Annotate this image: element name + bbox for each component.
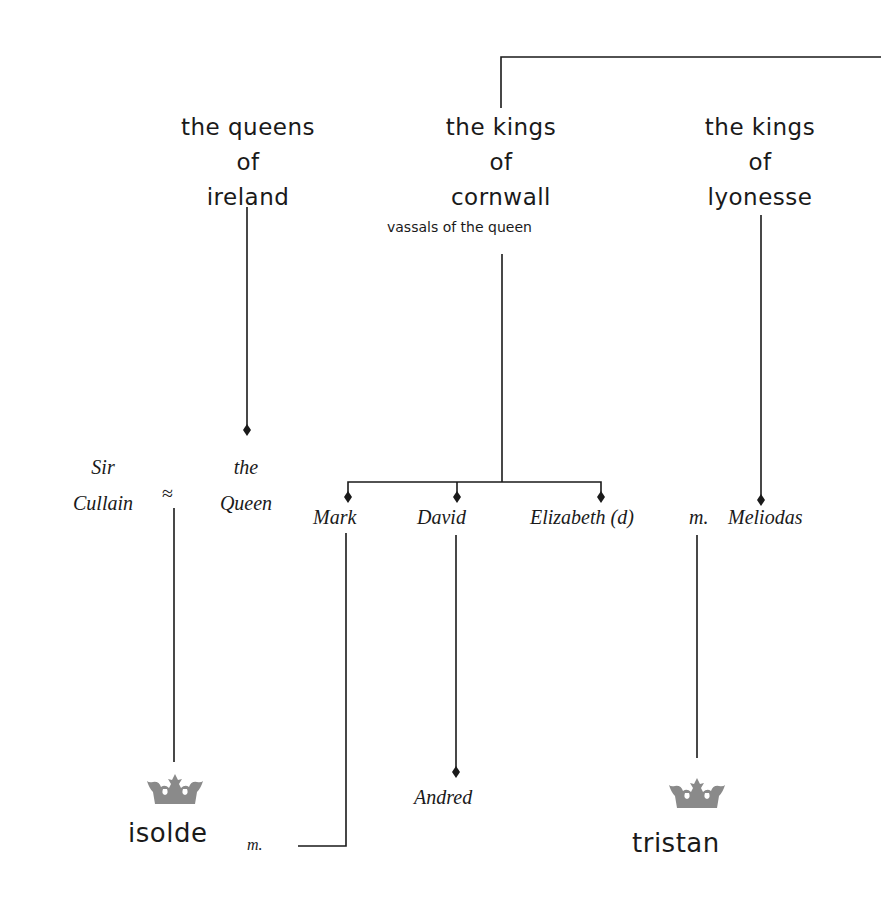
person-mark: Mark — [313, 506, 356, 529]
relation-cullain-queen: ≈ — [162, 482, 173, 505]
house-line: of — [130, 145, 366, 180]
diamond-marker — [757, 494, 765, 506]
diamond-marker — [452, 766, 460, 778]
house-line: of — [642, 145, 878, 180]
diamond-marker — [453, 491, 461, 503]
mark-isolde-marriage-line — [298, 533, 346, 846]
crown-icon — [141, 772, 209, 812]
house-ireland: the queens of ireland — [130, 110, 366, 215]
diamond-marker — [243, 424, 251, 436]
person-andred: Andred — [414, 786, 472, 809]
person-line: Sir — [72, 449, 134, 485]
person-tristan: tristan — [632, 828, 720, 858]
house-line: the kings — [642, 110, 878, 145]
person-elizabeth: Elizabeth (d) — [530, 506, 634, 529]
person-meliodas: Meliodas — [728, 506, 802, 529]
relation-elizabeth-meliodas: m. — [689, 506, 708, 529]
house-line: of — [383, 145, 619, 180]
house-cornwall: the kings of cornwall — [383, 110, 619, 215]
house-line: ireland — [130, 180, 366, 215]
person-line: Queen — [208, 485, 284, 521]
person-david: David — [417, 506, 466, 529]
person-the-queen: the Queen — [208, 449, 284, 521]
person-line: Cullain — [72, 485, 134, 521]
crown-icon — [663, 776, 731, 816]
person-sir-cullain: Sir Cullain — [72, 449, 134, 521]
house-line: lyonesse — [642, 180, 878, 215]
person-isolde: isolde — [128, 818, 207, 848]
person-line: the — [208, 449, 284, 485]
relation-isolde-mark: m. — [247, 836, 263, 854]
house-line: cornwall — [383, 180, 619, 215]
cornwall-children-bracket — [348, 482, 601, 496]
house-line: the kings — [383, 110, 619, 145]
house-lyonesse: the kings of lyonesse — [642, 110, 878, 215]
top-connector-line — [501, 57, 881, 108]
house-line: the queens — [130, 110, 366, 145]
diamond-marker — [597, 491, 605, 503]
diamond-marker — [344, 491, 352, 503]
cornwall-note: vassals of the queen — [387, 219, 532, 235]
